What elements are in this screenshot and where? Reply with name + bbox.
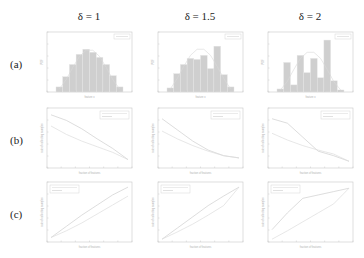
svg-text:feature x: feature x: [195, 95, 206, 99]
svg-text:feature x: feature x: [84, 95, 95, 99]
svg-text:rate of collecting samples: rate of collecting samples: [151, 123, 155, 153]
line-plot: fraction of featuresrate of collecting s…: [158, 182, 243, 242]
histogram: feature xPDF: [268, 32, 353, 92]
plot-panel-a-2: feature xPDF: [158, 32, 258, 102]
line-plot: fraction of featuresrate of collecting s…: [47, 108, 132, 168]
svg-text:fraction of features: fraction of features: [190, 245, 212, 249]
svg-text:rate of collecting samples: rate of collecting samples: [40, 197, 44, 227]
svg-text:rate of collecting samples: rate of collecting samples: [151, 197, 155, 227]
row-label-a: (a): [10, 58, 22, 70]
svg-text:rate of collecting samples: rate of collecting samples: [261, 197, 265, 227]
column-title-1: δ = 1: [44, 10, 134, 22]
svg-text:rate of collecting samples: rate of collecting samples: [261, 123, 265, 153]
line-plot: fraction of featuresrate of collecting s…: [268, 182, 353, 242]
svg-text:fraction of features: fraction of features: [190, 171, 212, 175]
line-plot: fraction of featuresrate of collecting s…: [47, 182, 132, 242]
svg-text:PDF: PDF: [40, 59, 44, 65]
plot-panel-c-3: fraction of featuresrate of collecting s…: [268, 182, 364, 252]
plot-panel-c-1: fraction of featuresrate of collecting s…: [47, 182, 147, 252]
plot-panel-a-1: feature xPDF: [47, 32, 147, 102]
svg-text:fraction of features: fraction of features: [79, 171, 101, 175]
svg-text:rate of collecting samples: rate of collecting samples: [40, 123, 44, 153]
plot-panel-a-3: feature xPDF: [268, 32, 364, 102]
row-label-c: (c): [10, 208, 22, 220]
plot-panel-c-2: fraction of featuresrate of collecting s…: [158, 182, 258, 252]
svg-text:fraction of features: fraction of features: [79, 245, 101, 249]
plot-panel-b-2: fraction of featuresrate of collecting s…: [158, 108, 258, 178]
svg-text:fraction of features: fraction of features: [300, 171, 322, 175]
plot-panel-b-3: fraction of featuresrate of collecting s…: [268, 108, 364, 178]
svg-text:PDF: PDF: [151, 59, 155, 65]
svg-text:feature x: feature x: [305, 95, 316, 99]
plot-panel-b-1: fraction of featuresrate of collecting s…: [47, 108, 147, 178]
line-plot: fraction of featuresrate of collecting s…: [268, 108, 353, 168]
line-plot: fraction of featuresrate of collecting s…: [158, 108, 243, 168]
column-title-2: δ = 1.5: [155, 10, 245, 22]
histogram: feature xPDF: [47, 32, 132, 92]
row-label-b: (b): [10, 134, 23, 146]
svg-text:fraction of features: fraction of features: [300, 245, 322, 249]
histogram: feature xPDF: [158, 32, 243, 92]
svg-text:PDF: PDF: [261, 59, 265, 65]
column-title-3: δ = 2: [265, 10, 355, 22]
